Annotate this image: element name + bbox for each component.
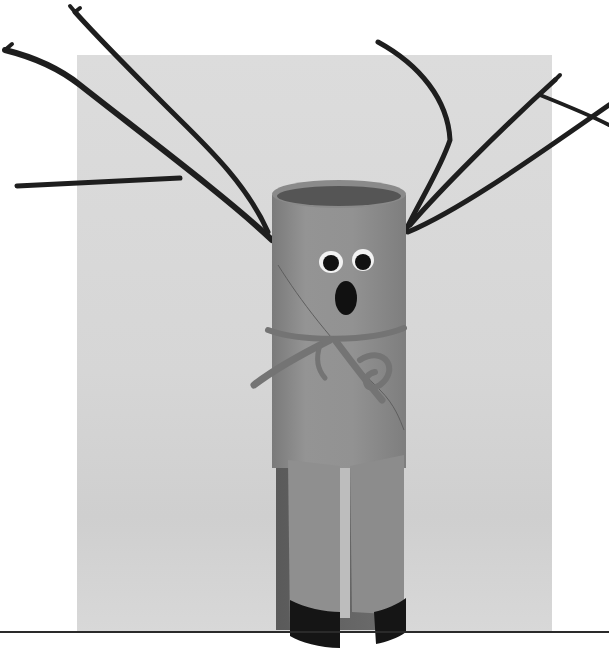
reindeer-craft-photo [0, 0, 609, 665]
tube-body [272, 180, 406, 635]
reindeer-illustration [0, 0, 609, 665]
baseline-rule [0, 631, 609, 633]
left-antler [5, 6, 272, 240]
right-antler [378, 42, 609, 232]
mouth [335, 281, 357, 315]
